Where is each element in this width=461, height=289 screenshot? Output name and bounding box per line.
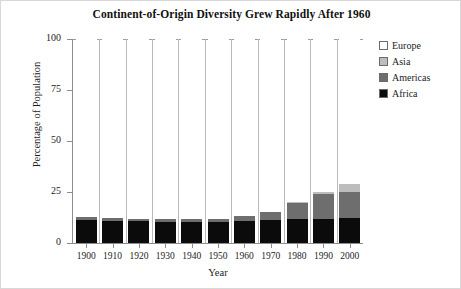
bar-segment-americas	[260, 212, 281, 219]
x-axis-tick	[86, 244, 87, 248]
y-axis-title: Percentage of Population	[31, 25, 42, 205]
bar-segment-europe	[102, 39, 123, 218]
bar-1930[interactable]	[155, 39, 176, 243]
bar-segment-europe	[287, 39, 308, 202]
bar-segment-africa	[181, 222, 202, 243]
x-axis-tick	[192, 244, 193, 248]
gridline	[310, 39, 311, 243]
legend-swatch-icon	[379, 57, 388, 66]
x-axis-tick	[350, 244, 351, 248]
bar-segment-africa	[313, 219, 334, 243]
x-axis-tick	[139, 244, 140, 248]
bar-2000[interactable]	[339, 39, 360, 243]
legend-swatch-icon	[379, 89, 388, 98]
bar-segment-europe	[313, 39, 334, 192]
gridline	[284, 39, 285, 243]
bar-segment-europe	[260, 39, 281, 212]
x-axis-tick	[271, 244, 272, 248]
bar-segment-africa	[128, 221, 149, 243]
x-axis-tick-label: 2000	[335, 251, 365, 261]
gridline	[99, 39, 100, 243]
gridline	[178, 39, 179, 243]
bar-segment-africa	[260, 220, 281, 243]
gridline	[231, 39, 232, 243]
bar-segment-africa	[208, 222, 229, 243]
y-axis-tick	[67, 90, 72, 91]
bar-segment-europe	[208, 39, 229, 219]
bar-segment-europe	[234, 39, 255, 216]
bar-segment-europe	[339, 39, 360, 184]
plot-area	[73, 39, 363, 243]
legend-item-label: Americas	[392, 72, 430, 83]
bar-segment-africa	[287, 219, 308, 243]
legend: EuropeAsiaAmericasAfrica	[379, 38, 430, 102]
bar-1950[interactable]	[208, 39, 229, 243]
bar-segment-africa	[102, 221, 123, 243]
x-axis-tick	[323, 244, 324, 248]
x-axis-tick	[165, 244, 166, 248]
y-axis-tick	[67, 39, 72, 40]
gridline	[258, 39, 259, 243]
legend-swatch-icon	[379, 41, 388, 50]
y-axis-tick-label: 100	[21, 32, 61, 43]
bar-1970[interactable]	[260, 39, 281, 243]
bar-segment-europe	[155, 39, 176, 219]
bar-segment-americas	[313, 194, 334, 218]
gridline	[152, 39, 153, 243]
bar-segment-europe	[181, 39, 202, 219]
y-axis-tick-label: 0	[21, 236, 61, 247]
bar-segment-africa	[155, 222, 176, 243]
y-axis-tick-label: 75	[21, 83, 61, 94]
bar-1980[interactable]	[287, 39, 308, 243]
bar-segment-americas	[339, 192, 360, 218]
x-axis-tick	[297, 244, 298, 248]
gridline	[126, 39, 127, 243]
bar-segment-europe	[76, 39, 97, 217]
bar-1960[interactable]	[234, 39, 255, 243]
bar-1940[interactable]	[181, 39, 202, 243]
bar-segment-europe	[128, 39, 149, 219]
bar-segment-africa	[234, 221, 255, 243]
y-axis-tick	[67, 141, 72, 142]
bar-1900[interactable]	[76, 39, 97, 243]
bar-segment-africa	[339, 218, 360, 244]
y-axis-tick-label: 50	[21, 134, 61, 145]
bar-1910[interactable]	[102, 39, 123, 243]
x-axis-title: Year	[73, 267, 363, 278]
bar-segment-africa	[76, 220, 97, 243]
gridline	[337, 39, 338, 243]
x-axis-tick	[113, 244, 114, 248]
legend-item-label: Europe	[392, 40, 421, 51]
x-axis-tick	[244, 244, 245, 248]
bar-1920[interactable]	[128, 39, 149, 243]
legend-item-europe[interactable]: Europe	[379, 38, 430, 53]
chart-figure: Continent-of-Origin Diversity Grew Rapid…	[0, 0, 461, 289]
gridline	[205, 39, 206, 243]
bar-segment-asia	[339, 184, 360, 192]
legend-swatch-icon	[379, 73, 388, 82]
legend-item-label: Asia	[392, 56, 410, 67]
y-axis-tick-label: 25	[21, 185, 61, 196]
legend-item-label: Africa	[392, 88, 418, 99]
legend-item-africa[interactable]: Africa	[379, 86, 430, 101]
bar-segment-americas	[287, 203, 308, 218]
bar-1990[interactable]	[313, 39, 334, 243]
page-title: Continent-of-Origin Diversity Grew Rapid…	[1, 8, 461, 20]
legend-item-asia[interactable]: Asia	[379, 54, 430, 69]
y-axis-tick	[67, 192, 72, 193]
x-axis-tick	[218, 244, 219, 248]
legend-item-americas[interactable]: Americas	[379, 70, 430, 85]
